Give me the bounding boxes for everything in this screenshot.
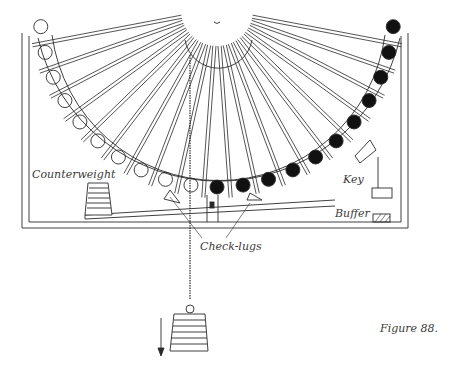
key — [355, 140, 392, 198]
leader-line — [226, 203, 250, 238]
leader-line — [170, 197, 202, 238]
label-counterweight: Counterweight — [32, 168, 115, 181]
label-check-lugs: Check-lugs — [200, 240, 262, 253]
check-lug-right — [247, 193, 262, 200]
center-posts — [207, 195, 218, 222]
counterweight — [85, 183, 112, 215]
hub-mark — [214, 22, 220, 24]
wheel-mechanism-diagram — [0, 0, 449, 370]
hanging-weight — [170, 305, 208, 351]
figure-caption: Figure 88. — [380, 322, 438, 335]
label-key: Key — [343, 173, 364, 186]
check-lug-left — [164, 190, 180, 203]
label-buffer: Buffer — [335, 207, 370, 220]
down-arrow-icon — [158, 318, 164, 356]
